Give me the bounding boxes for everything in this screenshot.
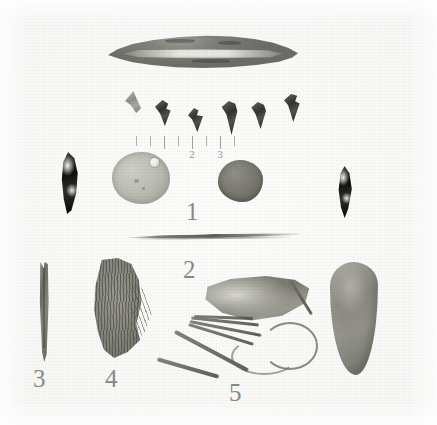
ruler-tick <box>206 136 207 146</box>
drill-body <box>335 166 355 218</box>
perforated-disc-pendant <box>112 152 170 204</box>
ruler-tick <box>234 136 235 146</box>
figure-label-5: 5 <box>229 380 242 405</box>
figure-label-4: 4 <box>105 366 118 391</box>
fiber-textile-fragment <box>88 258 150 358</box>
fiber-loose-strands <box>131 280 152 342</box>
disc-body <box>112 152 170 204</box>
projectile-point-5 <box>251 102 267 129</box>
ruler-tick <box>178 136 179 146</box>
figure-label-2: 2 <box>183 257 196 282</box>
projectile-point-4 <box>221 101 238 135</box>
pebble-body <box>218 160 263 202</box>
blade-highlight-band <box>123 49 283 58</box>
point-outline <box>188 108 203 132</box>
figure-label-3: 3 <box>33 366 46 391</box>
ruler-tick <box>150 136 151 146</box>
projectile-point-2 <box>155 100 172 126</box>
point-outline <box>284 94 300 122</box>
dark-pointed-drill-left <box>58 152 82 214</box>
ruler-number-3: 3 <box>217 148 223 160</box>
hide-fragment-with-thongs <box>196 276 314 386</box>
projectile-point-6 <box>284 94 300 122</box>
long-thin-bone-needle <box>128 230 300 242</box>
drill-body <box>58 152 82 214</box>
ruler-tick-major <box>164 136 165 149</box>
needle-edge-line <box>135 236 293 240</box>
elongated-oval-groundstone <box>330 262 378 375</box>
projectile-point-1 <box>125 91 141 113</box>
groundstone-body <box>330 262 378 375</box>
awl-groove <box>43 268 45 348</box>
hide-cord-loop <box>231 338 296 375</box>
point-outline <box>251 102 267 129</box>
ruler-tick <box>136 136 137 146</box>
point-outline <box>155 100 172 126</box>
point-outline <box>221 101 238 135</box>
suspension-hole <box>150 158 159 167</box>
blade-flake-scar <box>218 41 241 45</box>
lanceolate-biface-blade <box>108 29 298 71</box>
ruler-number-2: 2 <box>189 148 195 160</box>
bone-awl <box>38 262 50 362</box>
projectile-point-3 <box>188 108 203 132</box>
artifact-photo-plate: 2 3 1 2 3 4 <box>0 0 437 425</box>
dark-pointed-drill-right <box>335 166 355 218</box>
figure-label-1: 1 <box>186 199 199 224</box>
dark-rounded-disc <box>218 160 263 202</box>
blade-flake-scar <box>192 59 230 62</box>
point-outline <box>125 91 141 113</box>
